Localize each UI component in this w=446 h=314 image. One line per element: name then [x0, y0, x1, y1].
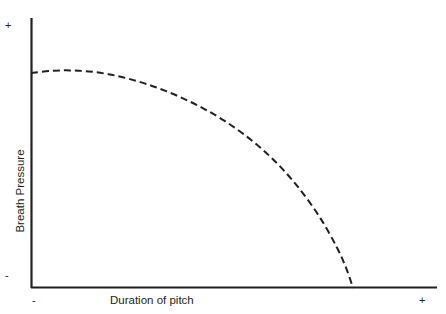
x-axis-high-tick-label: +: [419, 295, 425, 306]
y-axis-title: Breath Pressure: [14, 136, 26, 246]
chart-canvas: [0, 0, 446, 314]
x-axis-title: Duration of pitch: [110, 294, 194, 306]
y-axis-low-tick-label: -: [5, 270, 9, 281]
x-axis-low-tick-label: -: [32, 295, 36, 306]
breath-pressure-chart-figure: + - - + Breath Pressure Duration of pitc…: [0, 0, 446, 314]
breath-pressure-curve: [31, 70, 353, 288]
y-axis-high-tick-label: +: [5, 20, 11, 31]
